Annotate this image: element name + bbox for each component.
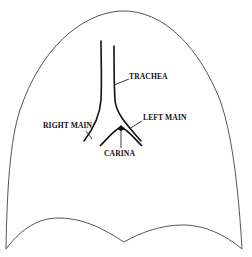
left-main-leader-line	[129, 121, 142, 129]
airway-diagram	[0, 0, 252, 257]
left-main-label: LEFT MAIN	[143, 114, 187, 122]
chest-outline	[6, 11, 242, 249]
right-main-label: RIGHT MAIN	[43, 122, 92, 130]
trachea-label: TRACHEA	[129, 73, 168, 81]
carina-label: CARINA	[104, 150, 135, 158]
trachea-leader-line	[114, 79, 129, 85]
trachea-left-wall	[114, 46, 141, 141]
